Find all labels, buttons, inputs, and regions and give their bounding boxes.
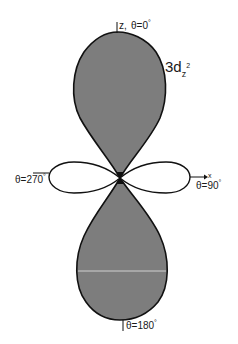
right-lobe (120, 162, 190, 193)
left-lobe (49, 162, 120, 193)
right-angle-label: θ=90° (196, 179, 222, 191)
upper-lobe (74, 32, 166, 178)
orbital-diagram: z, θ=0° 3dz2 θ=270° x θ=90° θ=180° (0, 0, 238, 344)
z-axis-label: z, (119, 20, 127, 31)
left-angle-label: θ=270° (15, 173, 46, 185)
bottom-angle-label: θ=180° (126, 319, 157, 331)
top-angle-label: θ=0° (131, 19, 151, 31)
orbital-title: 3dz2 (165, 58, 190, 79)
x-axis-label: x (208, 172, 212, 179)
orbital-svg: z, θ=0° 3dz2 θ=270° x θ=90° θ=180° (0, 0, 238, 344)
lower-lobe (77, 178, 168, 320)
